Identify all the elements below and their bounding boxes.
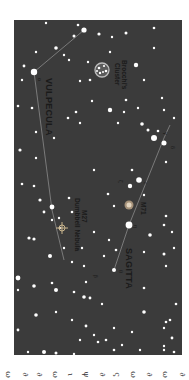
caption-fragment: ω (129, 371, 138, 378)
dumbbell-nebula-label: Dumbbell Nebula (74, 198, 81, 251)
caption-fragment: ι (67, 372, 76, 375)
caption-fragment: ∂ (145, 372, 154, 376)
caption-fragment: ς (113, 372, 122, 376)
sagitta-label: SAGITTA (124, 248, 134, 289)
greek-labels: α γ δ ζ ε η θ β (37, 78, 176, 278)
caption-fragment: ω (51, 371, 60, 378)
brocchis-cluster-marker (95, 63, 109, 77)
svg-text:γ: γ (162, 132, 169, 135)
caption-fragment: ψ (82, 371, 91, 377)
svg-text:δ: δ (170, 146, 176, 149)
caption-fragment: ∂ (20, 372, 29, 376)
caption-fragment: ∂ (98, 372, 107, 376)
caption-fragment: ω (161, 371, 170, 378)
caption-strip: ω ∂ ∂ ω ι ψ ∂ ς ω ∂ ω ∂ (0, 368, 189, 380)
m27-dumbbell-nebula-marker (56, 222, 68, 234)
svg-text:β: β (92, 275, 99, 278)
star-chart: α γ δ ζ ε η θ β VULPECULA SAGITTA Brocch… (14, 20, 182, 355)
star-field: α γ δ ζ ε η θ β (14, 20, 182, 355)
brocchis-cluster-label-line2: Cluster (114, 63, 121, 85)
caption-fragment: ω (4, 371, 13, 378)
brocchis-cluster-label-line1: Brocchi's (121, 60, 128, 89)
svg-text:ε: ε (143, 182, 149, 185)
m71-cluster-marker (125, 201, 134, 210)
sagitta-lines (114, 125, 170, 270)
caption-fragment: ∂ (35, 372, 44, 376)
vulpecula-label: VULPECULA (44, 78, 54, 136)
svg-text:η: η (132, 225, 139, 228)
svg-text:ζ: ζ (117, 180, 124, 183)
m71-label: M71 (140, 202, 147, 215)
caption-fragment: ∂ (177, 372, 186, 376)
svg-text:α: α (37, 78, 43, 82)
m27-label: M27 (81, 210, 88, 223)
